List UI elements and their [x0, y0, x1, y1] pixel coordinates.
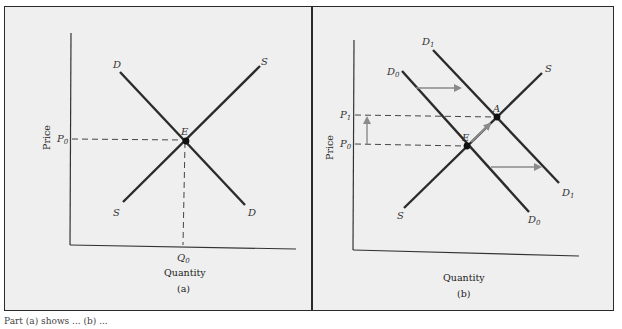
panel-b-label: (b) [457, 288, 471, 299]
equilibrium-point-a [494, 114, 501, 121]
demand-label-bottom: D [247, 207, 256, 218]
q0-guide [183, 142, 185, 245]
x-axis-label: Quantity [443, 272, 485, 283]
d1-label-bottom: D1 [561, 187, 575, 200]
d1-label-top: D1 [421, 36, 435, 49]
x-axis [70, 245, 296, 249]
x-axis-label: Quantity [164, 267, 206, 278]
supply-label-top: S [545, 63, 552, 74]
equilibrium-label-e: E [461, 132, 470, 143]
supply-label-bottom: S [397, 210, 404, 221]
equilibrium-point-e [464, 143, 471, 150]
p1-label: P1 [339, 109, 351, 122]
y-axis-label: Price [41, 125, 52, 150]
p0-label: P0 [339, 138, 352, 151]
supply-demand-diagram: D D S S E P0 Q0 Quantity Price (a) D1 D1… [0, 0, 622, 329]
movement-along-supply-arrow [471, 124, 490, 142]
d0-label-top: D0 [386, 66, 400, 79]
figure-caption: Part (a) shows ... (b) ... [4, 316, 108, 326]
panel-b: D1 D1 D0 D0 S S E A P1 P0 Quantity Price… [324, 36, 579, 299]
p1-guide [355, 115, 495, 117]
q0-label: Q0 [177, 252, 190, 265]
equilibrium-label-a: A [492, 103, 500, 114]
equilibrium-point [183, 138, 190, 145]
supply-label-bottom: S [113, 207, 120, 218]
p0-guide [72, 139, 184, 140]
x-axis [353, 250, 579, 256]
supply-curve [123, 66, 260, 202]
demand-label-top: D [112, 59, 121, 70]
y-axis-label: Price [324, 135, 335, 160]
supply-label-top: S [261, 56, 268, 67]
d0-label-bottom: D0 [527, 214, 541, 227]
equilibrium-label: E [180, 126, 189, 137]
y-axis [353, 40, 354, 250]
y-axis [70, 33, 71, 245]
panel-a: D D S S E P0 Q0 Quantity Price (a) [41, 33, 296, 294]
p0-guide [355, 144, 465, 146]
p0-label: P0 [56, 133, 69, 146]
panel-a-label: (a) [177, 283, 190, 294]
